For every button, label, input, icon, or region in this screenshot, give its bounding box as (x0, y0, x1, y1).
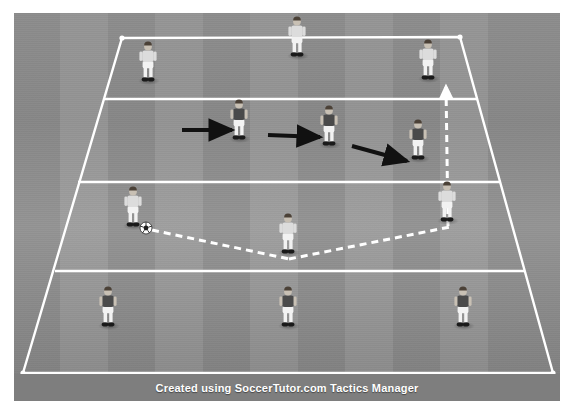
player-boot-right (463, 322, 470, 326)
player-arm-left (279, 296, 282, 306)
player-arm-right (469, 296, 472, 306)
player-dark-player-mid-left[interactable] (229, 100, 251, 143)
movement-press-arrow-3 (352, 146, 407, 161)
player-arm-left (124, 196, 127, 206)
player-shorts (234, 119, 245, 126)
player-shirt (291, 26, 303, 38)
player-boot-right (288, 249, 295, 253)
player-hair (459, 287, 467, 291)
player-shorts (442, 201, 453, 208)
player-arm-right (335, 115, 338, 125)
player-white-player-right-low[interactable] (437, 182, 459, 225)
player-hair (414, 120, 422, 124)
tactics-overlay (0, 0, 574, 415)
player-arm-right (294, 296, 297, 306)
player-shirt (457, 296, 469, 308)
player-boot-left (102, 322, 109, 326)
player-boot-left (412, 155, 419, 159)
player-arm-left (409, 129, 412, 139)
footer-bar: Created using SoccerTutor.com Tactics Ma… (14, 374, 560, 401)
player-arm-left (419, 49, 422, 59)
corner-marker (119, 35, 124, 40)
player-boot-right (447, 217, 454, 221)
player-dark-player-mid-center[interactable] (319, 106, 341, 149)
tactics-diagram: Created using SoccerTutor.com Tactics Ma… (0, 0, 574, 415)
player-boot-right (329, 141, 336, 145)
pass-lines (152, 227, 450, 259)
player-boot-right (418, 155, 425, 159)
player-boot-right (108, 322, 115, 326)
player-arm-right (453, 191, 456, 201)
player-shorts (103, 306, 114, 313)
player-shorts (292, 36, 303, 43)
player-white-player-top-right[interactable] (418, 40, 440, 83)
player-shorts (128, 206, 139, 213)
player-dark-player-bottom-left[interactable] (98, 287, 120, 330)
player-boot-left (233, 135, 240, 139)
player-boot-left (282, 322, 289, 326)
player-arm-left (230, 109, 233, 119)
player-boot-left (282, 249, 289, 253)
movement-arrows (182, 130, 407, 161)
player-boot-left (142, 77, 149, 81)
player-boot-left (457, 322, 464, 326)
player-shorts (324, 125, 335, 132)
player-arm-left (454, 296, 457, 306)
credit-text: Created using SoccerTutor.com Tactics Ma… (156, 382, 419, 394)
player-boot-right (288, 322, 295, 326)
player-arm-left (99, 296, 102, 306)
player-dark-player-bottom-center[interactable] (278, 287, 300, 330)
player-arm-right (154, 51, 157, 61)
player-boot-right (133, 222, 140, 226)
player-hair (284, 214, 292, 218)
movement-press-arrow-2 (268, 135, 320, 137)
player-shorts (413, 139, 424, 146)
player-arm-left (320, 115, 323, 125)
player-shirt (102, 296, 114, 308)
player-shirt (282, 223, 294, 235)
player-arm-right (245, 109, 248, 119)
player-arm-left (279, 223, 282, 233)
player-shirt (323, 115, 335, 127)
player-arm-left (288, 26, 291, 36)
player-hair (104, 287, 112, 291)
ball-layer (140, 222, 152, 234)
ball-group (140, 222, 152, 234)
players-layer (98, 17, 475, 330)
player-shirt (422, 49, 434, 61)
player-boot-left (441, 217, 448, 221)
player-arm-right (114, 296, 117, 306)
player-shorts (143, 61, 154, 68)
player-arm-right (303, 26, 306, 36)
player-boot-left (291, 52, 298, 56)
player-arm-right (294, 223, 297, 233)
pass-line-pass-left-to-center (152, 230, 289, 259)
player-boot-right (297, 52, 304, 56)
player-shirt (441, 191, 453, 203)
player-boot-right (148, 77, 155, 81)
player-boot-left (127, 222, 134, 226)
player-shirt (233, 109, 245, 121)
player-shirt (142, 51, 154, 63)
player-boot-left (323, 141, 330, 145)
player-shorts (423, 59, 434, 66)
player-hair (424, 40, 432, 44)
player-dark-player-bottom-right[interactable] (453, 287, 475, 330)
player-hair (144, 42, 152, 46)
player-arm-right (434, 49, 437, 59)
player-boot-right (239, 135, 246, 139)
player-hair (129, 187, 137, 191)
pass-line-pass-center-to-right (289, 227, 450, 259)
player-hair (284, 287, 292, 291)
player-shirt (282, 296, 294, 308)
player-shirt (127, 196, 139, 208)
player-dark-player-mid-right[interactable] (408, 120, 430, 163)
player-white-player-center-low[interactable] (278, 214, 300, 257)
player-boot-left (422, 75, 429, 79)
player-shorts (283, 306, 294, 313)
player-arm-right (139, 196, 142, 206)
player-arm-right (424, 129, 427, 139)
player-white-player-top-left[interactable] (138, 42, 160, 85)
player-hair (325, 106, 333, 110)
corner-marker (457, 34, 462, 39)
